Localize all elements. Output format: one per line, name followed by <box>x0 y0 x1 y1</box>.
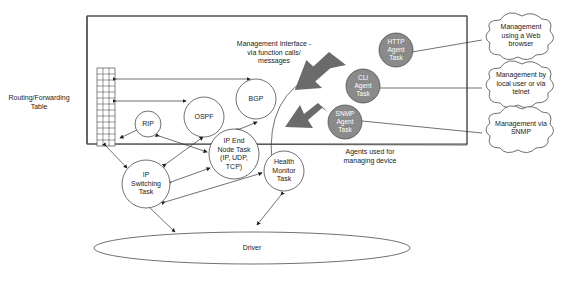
snmp-agent-label: SNMP Agent Task <box>329 110 361 134</box>
rip-label: RIP <box>135 119 161 129</box>
http-agent-label: HTTP Agent Task <box>380 38 412 62</box>
label-line: Task <box>277 175 291 184</box>
label-line: Management Interface - <box>232 40 316 49</box>
label-line: CLI <box>358 74 368 82</box>
label-line: Task <box>139 188 153 197</box>
snmp-management-label: Management via SNMP <box>488 118 554 138</box>
label-line: Task <box>356 90 369 98</box>
label-line: managing device <box>335 157 405 166</box>
routing-table-grid <box>97 68 115 146</box>
label-line: IP <box>143 171 150 180</box>
label-line: Node Task <box>218 146 251 155</box>
label-line: TCP) <box>226 163 242 172</box>
label-line: Routing/Forwarding <box>8 94 70 103</box>
label-line: Agent <box>337 118 354 126</box>
health-monitor-label: Health Monitor Task <box>264 158 304 184</box>
label-line: Task <box>338 126 351 134</box>
label-line: Management via <box>495 120 547 129</box>
label-line: Task <box>389 54 402 62</box>
ip-switching-label: IP Switching Task <box>124 171 168 197</box>
label-line: HTTP <box>388 38 405 46</box>
label-line: Health <box>274 158 294 167</box>
management-interface-label: Management Interface - via function call… <box>232 40 316 66</box>
mgmt-arrow-2 <box>285 103 328 128</box>
label-line: Management <box>501 23 542 32</box>
telnet-management-label: Management by local user or via telnet <box>486 70 556 98</box>
label-line: via function calls/ <box>232 49 316 58</box>
web-management-label: Management using a Web browser <box>490 22 552 50</box>
label-line: Agent <box>355 82 372 90</box>
label-line: local user or via <box>496 80 545 89</box>
driver-label: Driver <box>232 243 272 253</box>
label-line: (IP, UDP, <box>220 154 248 163</box>
ospf-label: OSPF <box>184 112 224 122</box>
label-line: using a Web <box>502 32 541 41</box>
label-line: Management by <box>496 71 546 80</box>
label-line: IP End <box>224 137 245 146</box>
label-line: browser <box>509 40 534 49</box>
bgp-label: BGP <box>236 94 276 104</box>
label-line: Table <box>8 103 70 112</box>
label-line: SNMP <box>336 110 355 118</box>
ip-end-node-label: IP End Node Task (IP, UDP, TCP) <box>210 136 258 172</box>
label-line: messages <box>232 57 316 66</box>
label-line: Agents used for <box>335 148 405 157</box>
agents-caption: Agents used for managing device <box>335 148 405 165</box>
label-line: SNMP <box>511 128 531 137</box>
label-line: telnet <box>512 88 529 97</box>
routing-table-label: Routing/Forwarding Table <box>8 94 70 111</box>
label-line: Monitor <box>272 167 295 176</box>
label-line: Agent <box>388 46 405 54</box>
cli-agent-label: CLI Agent Task <box>347 74 379 98</box>
label-line: Switching <box>131 180 161 189</box>
